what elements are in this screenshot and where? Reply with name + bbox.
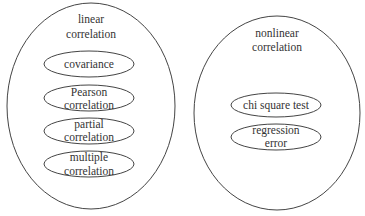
item-regression-error: regression error [231, 124, 321, 150]
regression-label-line1: regression [252, 124, 300, 137]
linear-title-line2: correlation [66, 28, 116, 40]
chi-square-label: chi square test [243, 99, 310, 112]
group-linear-correlation: linear correlation covariance Pearson co… [7, 3, 175, 209]
linear-title-line1: linear [78, 13, 104, 25]
pearson-label-line2: correlation [64, 99, 114, 111]
regression-label-line2: error [265, 137, 288, 149]
item-covariance: covariance [44, 51, 134, 77]
multiple-label-line1: multiple [70, 151, 108, 164]
item-partial-correlation: partial correlation [44, 118, 134, 144]
partial-label-line1: partial [74, 118, 103, 131]
partial-label-line2: correlation [64, 131, 114, 143]
multiple-label-line2: correlation [64, 165, 114, 177]
correlation-diagram: linear correlation covariance Pearson co… [0, 0, 365, 216]
covariance-label: covariance [64, 58, 114, 70]
group-nonlinear-correlation: nonlinear correlation chi square test re… [194, 16, 360, 210]
pearson-label-line1: Pearson [71, 86, 108, 98]
item-pearson-correlation: Pearson correlation [44, 85, 134, 111]
item-chi-square-test: chi square test [231, 93, 321, 117]
nonlinear-title-line1: nonlinear [255, 27, 299, 39]
item-multiple-correlation: multiple correlation [44, 151, 134, 177]
nonlinear-title-line2: correlation [252, 41, 302, 53]
